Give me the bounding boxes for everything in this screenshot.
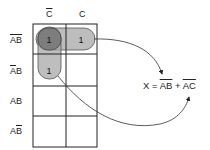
arrow-to-abar-bbar: [94, 39, 162, 74]
cell-r0-c0: 1: [43, 35, 55, 45]
cell-r0-c1: 1: [75, 35, 87, 45]
eq-plus: +: [175, 80, 181, 91]
row2-b: B: [16, 96, 22, 106]
col-label-cbar: C: [46, 9, 53, 19]
row1-b: B: [16, 66, 22, 76]
kmap-diagram: [0, 0, 210, 150]
row0-b: B: [16, 35, 22, 45]
eq-term2: AC: [183, 80, 196, 91]
row-label-abar-b: AB: [10, 66, 22, 76]
row-label-a-bbar: AB: [10, 126, 22, 136]
simplified-equation: X = AB + AC: [143, 80, 196, 91]
col-label-c-text: C: [79, 9, 86, 19]
eq-lhs: X: [143, 80, 149, 91]
col-label-cbar-text: C: [46, 9, 53, 19]
eq-term1: AB: [160, 80, 173, 91]
row-label-a-b: AB: [10, 96, 22, 106]
cell-r1-c0: 1: [43, 66, 55, 76]
eq-equals: =: [152, 80, 158, 91]
row-label-abar-bbar: AB: [10, 35, 22, 45]
row3-b: B: [16, 126, 22, 136]
col-label-c: C: [79, 9, 86, 19]
